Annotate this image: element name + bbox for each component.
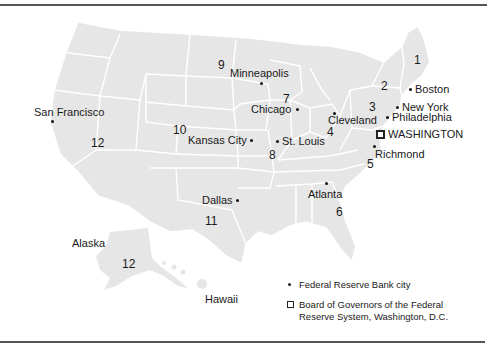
district-number: 2 (381, 80, 388, 92)
city-label: Kansas City (188, 134, 247, 146)
board-of-governors-marker-icon (376, 130, 385, 139)
city-label: St. Louis (282, 135, 325, 147)
district-number: 4 (327, 126, 334, 138)
district-number: 1 (414, 54, 421, 66)
city-dot-icon (236, 199, 239, 202)
alaska (96, 228, 188, 290)
city-label: Richmond (375, 148, 425, 160)
city-label: Minneapolis (230, 67, 289, 79)
district-number: 9 (218, 59, 225, 71)
city-dot-icon (409, 88, 412, 91)
legend-board-line2: Reserve System, Washington, D.C. (299, 311, 448, 323)
legend-bank-city-label: Federal Reserve Bank city (299, 279, 410, 290)
city-label: Atlanta (308, 188, 342, 200)
legend: Federal Reserve Bank city Board of Gover… (287, 279, 448, 331)
city-dot-icon (386, 116, 389, 119)
city-dot-icon (260, 82, 263, 85)
city-label: San Francisco (34, 106, 104, 118)
city-label: Dallas (202, 194, 233, 206)
city-dot-icon (250, 139, 253, 142)
district-number: 5 (367, 158, 374, 170)
bank-city-dot-icon (288, 283, 291, 286)
city-dot-icon (51, 120, 54, 123)
city-label: Philadelphia (392, 111, 452, 123)
district-number: 11 (205, 215, 217, 227)
district-number: 12 (122, 258, 135, 270)
board-square-icon (287, 301, 294, 308)
washington-label: WASHINGTON (388, 128, 463, 140)
city-label: Chicago (251, 103, 291, 115)
city-label: Boston (415, 83, 449, 95)
legend-board: Board of Governors of the Federal Reserv… (287, 299, 448, 323)
district-number: 12 (91, 137, 104, 149)
district-number: 6 (336, 206, 343, 218)
city-dot-icon (276, 140, 279, 143)
bottom-rule (0, 341, 485, 343)
city-dot-icon (396, 106, 399, 109)
alaska-label: Alaska (72, 237, 105, 249)
district-number: 10 (173, 124, 186, 136)
district-number: 8 (269, 149, 276, 161)
hawaii-label: Hawaii (205, 293, 238, 305)
city-dot-icon (296, 108, 299, 111)
legend-board-line1: Board of Governors of the Federal (299, 299, 448, 311)
city-label: Cleveland (328, 114, 377, 126)
legend-bank-city: Federal Reserve Bank city (287, 279, 448, 291)
city-dot-icon (325, 182, 328, 185)
district-number: 3 (369, 101, 376, 113)
